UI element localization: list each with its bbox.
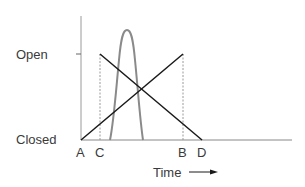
- timing-diagram: [0, 0, 305, 187]
- label-b: B: [178, 146, 187, 159]
- label-d: D: [197, 146, 206, 159]
- bell-curve: [110, 30, 143, 140]
- right-arrow-icon: [189, 170, 218, 175]
- label-c: C: [95, 146, 104, 159]
- time-label: Time: [153, 166, 181, 179]
- closed-label: Closed: [16, 133, 56, 146]
- open-label: Open: [16, 48, 48, 61]
- label-a: A: [76, 146, 85, 159]
- line-a-to-b: [81, 54, 183, 140]
